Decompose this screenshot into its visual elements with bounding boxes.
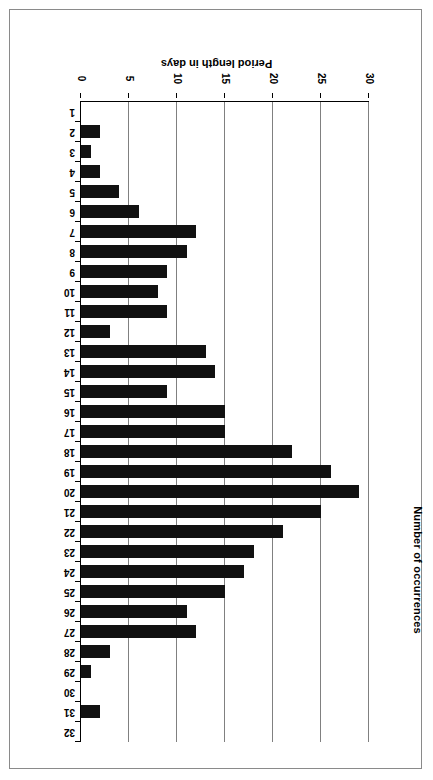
bar-9 xyxy=(81,266,167,279)
category-label-15: 15 xyxy=(64,387,75,398)
bar-29 xyxy=(81,666,91,679)
value-label-5: 5 xyxy=(124,68,135,90)
category-label-9: 9 xyxy=(69,267,75,278)
value-tick-5 xyxy=(128,93,129,98)
gridline-10 xyxy=(176,102,177,742)
value-tick-30 xyxy=(368,93,369,98)
category-label-25: 25 xyxy=(64,587,75,598)
chart-frame: Number of occurrences Period length in d… xyxy=(9,9,422,769)
bar-26 xyxy=(81,606,187,619)
value-axis-line xyxy=(80,101,369,102)
value-tick-20 xyxy=(272,93,273,98)
bar-24 xyxy=(81,566,244,579)
bar-20 xyxy=(81,486,359,499)
bar-31 xyxy=(81,706,100,719)
value-tick-0 xyxy=(80,93,81,98)
category-label-21: 21 xyxy=(64,507,75,518)
category-label-7: 7 xyxy=(69,227,75,238)
gridline-20 xyxy=(272,102,273,742)
rotated-figure: Number of occurrences Period length in d… xyxy=(10,10,423,770)
category-label-13: 13 xyxy=(64,347,75,358)
bar-17 xyxy=(81,426,225,439)
bar-5 xyxy=(81,186,119,199)
category-label-30: 30 xyxy=(64,687,75,698)
bar-18 xyxy=(81,446,292,459)
bar-25 xyxy=(81,586,225,599)
category-label-28: 28 xyxy=(64,647,75,658)
category-axis-line xyxy=(80,102,81,742)
value-tick-15 xyxy=(224,93,225,98)
category-label-11: 11 xyxy=(64,307,75,318)
gridline-5 xyxy=(128,102,129,742)
gridline-30 xyxy=(368,102,369,742)
category-label-20: 20 xyxy=(64,487,75,498)
bar-11 xyxy=(81,306,167,319)
category-label-2: 2 xyxy=(69,127,75,138)
category-label-6: 6 xyxy=(69,207,75,218)
category-label-31: 31 xyxy=(64,707,75,718)
category-label-1: 1 xyxy=(69,107,75,118)
bar-16 xyxy=(81,406,225,419)
bar-8 xyxy=(81,246,187,259)
value-label-30: 30 xyxy=(364,68,375,90)
bar-13 xyxy=(81,346,206,359)
bar-7 xyxy=(81,226,196,239)
gridline-15 xyxy=(224,102,225,742)
bar-22 xyxy=(81,526,283,539)
bar-27 xyxy=(81,626,196,639)
bar-4 xyxy=(81,166,100,179)
category-label-5: 5 xyxy=(69,187,75,198)
category-label-8: 8 xyxy=(69,247,75,258)
bar-15 xyxy=(81,386,167,399)
category-label-27: 27 xyxy=(64,627,75,638)
category-label-17: 17 xyxy=(64,427,75,438)
bar-chart: Number of occurrences Period length in d… xyxy=(10,10,423,770)
value-tick-25 xyxy=(320,93,321,98)
value-axis-labels: 051015202530 xyxy=(80,68,369,98)
category-label-14: 14 xyxy=(64,367,75,378)
value-label-20: 20 xyxy=(268,68,279,90)
value-label-25: 25 xyxy=(316,68,327,90)
bar-12 xyxy=(81,326,110,339)
category-label-19: 19 xyxy=(64,467,75,478)
bar-14 xyxy=(81,366,215,379)
bar-10 xyxy=(81,286,158,299)
category-label-16: 16 xyxy=(64,407,75,418)
category-label-18: 18 xyxy=(64,447,75,458)
category-label-10: 10 xyxy=(64,287,75,298)
category-label-24: 24 xyxy=(64,567,75,578)
gridline-25 xyxy=(320,102,321,742)
category-label-3: 3 xyxy=(69,147,75,158)
bar-2 xyxy=(81,126,100,139)
bar-28 xyxy=(81,646,110,659)
value-label-10: 10 xyxy=(172,68,183,90)
bar-21 xyxy=(81,506,321,519)
category-label-32: 32 xyxy=(64,727,75,738)
value-tick-10 xyxy=(176,93,177,98)
bar-23 xyxy=(81,546,254,559)
category-label-22: 22 xyxy=(64,527,75,538)
value-axis-title: Number of occurrences xyxy=(412,470,424,670)
category-label-26: 26 xyxy=(64,607,75,618)
value-label-15: 15 xyxy=(220,68,231,90)
category-label-12: 12 xyxy=(64,327,75,338)
bar-3 xyxy=(81,146,91,159)
category-label-4: 4 xyxy=(69,167,75,178)
category-label-23: 23 xyxy=(64,547,75,558)
bar-6 xyxy=(81,206,139,219)
value-label-0: 0 xyxy=(76,68,87,90)
bar-19 xyxy=(81,466,331,479)
plot-area xyxy=(80,102,369,742)
category-label-29: 29 xyxy=(64,667,75,678)
